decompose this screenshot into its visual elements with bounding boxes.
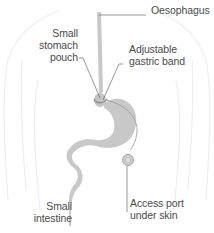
label-adjustable-gastric-band: Adjustable gastric band bbox=[129, 43, 185, 67]
leader-pouch bbox=[79, 58, 100, 98]
label-oesophagus: Oesophagus bbox=[151, 4, 210, 16]
oesophagus-organ bbox=[97, 12, 103, 94]
leader-band bbox=[103, 64, 123, 100]
label-small-stomach-pouch: Small stomach pouch bbox=[32, 27, 78, 63]
stomach-organ bbox=[67, 99, 137, 203]
access-port bbox=[123, 155, 134, 166]
label-small-intestine: Small intestine bbox=[31, 200, 72, 224]
label-access-port: Access port under skin bbox=[130, 197, 184, 221]
